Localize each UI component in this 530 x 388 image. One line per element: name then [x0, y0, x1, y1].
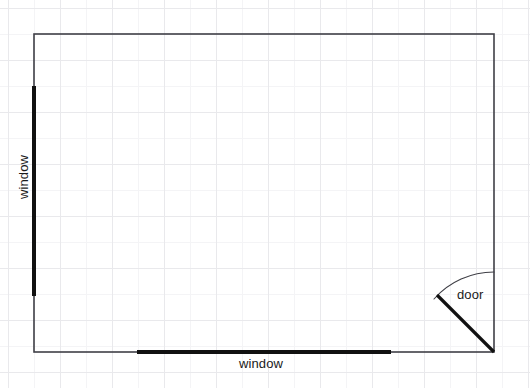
window-bottom-label: window — [239, 356, 283, 371]
door-label: door — [457, 287, 483, 302]
window-left-label: window — [16, 155, 31, 199]
room-outline — [34, 34, 494, 352]
door-leaf-symbol — [437, 295, 494, 352]
floor-plan-drawing — [0, 0, 530, 388]
floor-plan-canvas: window window door — [0, 0, 530, 388]
